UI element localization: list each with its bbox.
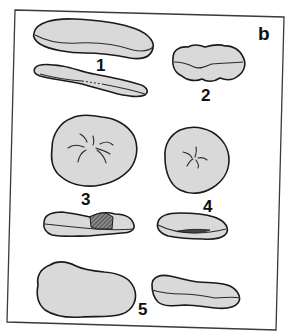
specimen-4-side-view <box>157 213 227 239</box>
specimen-3-side-view <box>44 212 134 236</box>
specimen-1-top-view <box>34 19 154 59</box>
panel-label: b <box>258 23 270 44</box>
specimen-2-view <box>173 45 245 81</box>
specimen-1-side-view <box>34 64 147 96</box>
specimen-1-label: 1 <box>96 56 105 75</box>
figure-diagram: b 1 2 3 4 <box>0 0 291 336</box>
specimen-3-top-view <box>52 115 137 186</box>
specimen-4-label: 4 <box>203 197 213 216</box>
specimen-5-label: 5 <box>138 300 147 319</box>
specimen-5-side-view <box>152 275 240 308</box>
specimen-2-label: 2 <box>201 86 210 105</box>
specimen-4-top-view <box>165 128 229 194</box>
specimen-3-label: 3 <box>81 190 90 209</box>
specimen-5-top-view <box>37 262 135 317</box>
